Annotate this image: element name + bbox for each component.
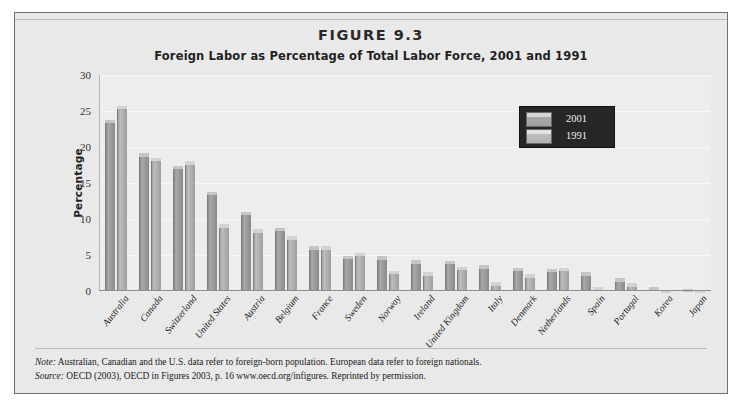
bar-front-face: [389, 274, 399, 291]
bar-top-face: [491, 282, 501, 286]
bar-group: [683, 75, 705, 291]
x-tick-label: Canada: [137, 293, 164, 324]
bar-front-face: [457, 270, 467, 291]
bar-front-face: [219, 227, 229, 291]
bar-1991-france: [321, 246, 331, 291]
bar-front-face: [151, 161, 161, 291]
bar-front-face: [423, 275, 433, 291]
bar-group: [139, 75, 161, 291]
bar-2001-spain: [581, 272, 591, 291]
bar-front-face: [117, 109, 127, 291]
bar-group: [275, 75, 297, 291]
bar-front-face: [309, 249, 319, 291]
bar-2001-switzerland: [173, 166, 183, 291]
source-prefix: Source:: [35, 371, 64, 381]
bar-front-face: [445, 264, 455, 291]
bar-2001-ireland: [411, 260, 421, 291]
bar-front-face: [479, 268, 489, 291]
x-tick-label: France: [309, 293, 335, 322]
bar-top-face: [287, 236, 297, 240]
figure-panel: FIGURE 9.3 Foreign Labor as Percentage o…: [14, 12, 728, 394]
bar-2001-italy: [479, 265, 489, 291]
bar-top-face: [457, 267, 467, 271]
bar-1991-united-kingdom: [457, 267, 467, 291]
y-axis-line: [99, 75, 100, 291]
bar-top-face: [479, 265, 489, 269]
bar-top-face: [253, 229, 263, 233]
y-axis-title: Percentage: [72, 148, 84, 218]
bar-front-face: [253, 232, 263, 291]
source-line: Source: OECD (2003), OECD in Figures 200…: [35, 370, 707, 384]
bar-top-face: [321, 246, 331, 250]
bar-front-face: [241, 215, 251, 291]
bar-1991-netherlands: [559, 268, 569, 291]
bar-top-face: [355, 253, 365, 257]
bar-1991-sweden: [355, 253, 365, 291]
x-tick-label: Belgium: [272, 293, 300, 325]
bar-top-face: [581, 272, 591, 276]
bar-top-face: [309, 246, 319, 250]
x-axis-line: [99, 290, 711, 291]
bar-1991-united-states: [219, 224, 229, 291]
x-tick-label: Spain: [585, 293, 607, 317]
figure-number: FIGURE 9.3: [15, 27, 727, 43]
bar-top-face: [389, 271, 399, 275]
bar-front-face: [185, 164, 195, 291]
x-tick-label: Japan: [686, 293, 709, 318]
bar-group: [411, 75, 433, 291]
bar-top-face: [207, 192, 217, 196]
bar-top-face: [105, 120, 115, 124]
bar-top-face: [445, 261, 455, 265]
x-tick-label: Sweden: [342, 293, 369, 323]
y-tick-label: 30: [80, 69, 91, 81]
bar-1991-switzerland: [185, 161, 195, 291]
bar-group: [343, 75, 365, 291]
bar-1991-austria: [253, 229, 263, 291]
bar-top-face: [173, 166, 183, 170]
x-tick-label: Australia: [100, 293, 131, 328]
bar-2001-united-states: [207, 192, 217, 291]
bar-top-face: [513, 268, 523, 272]
note-prefix: Note:: [35, 357, 56, 367]
bar-group: [479, 75, 501, 291]
bar-front-face: [139, 156, 149, 291]
bar-top-face: [559, 268, 569, 272]
bar-2001-sweden: [343, 256, 353, 291]
x-axis-labels: AustraliaCanadaSwitzerlandUnited StatesA…: [99, 293, 711, 355]
legend-label-2001: 2001: [566, 111, 587, 126]
bar-top-face: [139, 153, 149, 157]
bar-2001-france: [309, 246, 319, 291]
bar-front-face: [275, 231, 285, 291]
bar-front-face: [321, 249, 331, 291]
footnote-divider: [35, 348, 707, 349]
bar-2001-australia: [105, 120, 115, 291]
bar-front-face: [547, 272, 557, 291]
bar-top-face: [615, 278, 625, 282]
bar-2001-denmark: [513, 268, 523, 291]
bar-group: [445, 75, 467, 291]
bar-top-face: [343, 256, 353, 260]
bar-front-face: [581, 275, 591, 291]
x-tick-label: Switzerland: [162, 293, 199, 335]
bar-top-face: [423, 272, 433, 276]
legend-label-1991: 1991: [566, 128, 587, 143]
header-divider: [15, 19, 727, 20]
y-tick-label: 5: [86, 249, 92, 261]
bar-1991-denmark: [525, 274, 535, 291]
bar-top-face: [525, 274, 535, 278]
x-tick-label: Ireland: [411, 293, 437, 322]
bar-front-face: [559, 271, 569, 291]
x-tick-label: Korea: [651, 293, 674, 318]
bar-front-face: [411, 263, 421, 291]
bar-top-face: [627, 283, 637, 287]
bar-top-face: [275, 228, 285, 232]
footnotes: Note: Australian, Canadian and the U.S. …: [35, 356, 707, 383]
chart-plot-area: 051015202530 Percentage: [99, 75, 711, 291]
bar-group: [105, 75, 127, 291]
figure-title: Foreign Labor as Percentage of Total Lab…: [15, 49, 727, 63]
x-tick-label: Norway: [375, 293, 402, 324]
bar-group: [207, 75, 229, 291]
bar-top-face: [241, 212, 251, 216]
bar-front-face: [355, 256, 365, 291]
bar-top-face: [377, 256, 387, 260]
